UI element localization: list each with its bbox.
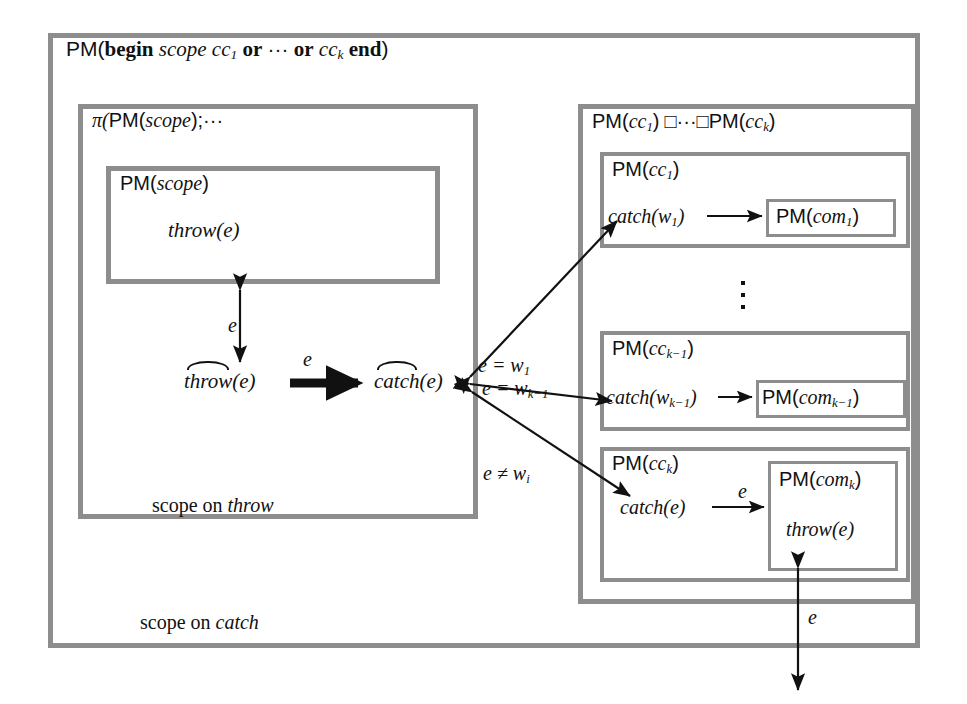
arrow-e-neq-wi [472, 392, 630, 496]
figure-canvas: PM(begin scope cc1 or ··· or cck end) sc… [0, 0, 967, 704]
arrow-e-eq-wk1 [470, 384, 612, 401]
arrow-layer [0, 0, 967, 704]
arrow-e-eq-w1 [470, 221, 617, 377]
